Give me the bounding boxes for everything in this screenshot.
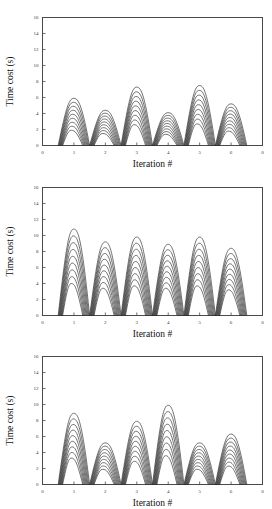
arc-cluster	[215, 248, 246, 315]
y-tick-label: 8	[36, 418, 39, 423]
y-axis-title: Time cost (s)	[5, 227, 16, 277]
x-tick-label: 6	[230, 150, 233, 155]
x-tick-label: 3	[136, 150, 139, 155]
arc-cluster	[58, 229, 89, 315]
y-tick-label: 12	[34, 217, 40, 222]
y-tick-label: 4	[36, 111, 39, 116]
x-axis-title: Iteration #	[133, 159, 173, 169]
x-tick-label: 0	[261, 320, 264, 325]
y-tick-label: 6	[36, 265, 39, 270]
x-tick-label: 0	[41, 150, 44, 155]
y-tick-label: 0	[36, 482, 39, 487]
x-axis-title: Iteration #	[133, 329, 173, 339]
arc-cluster	[90, 443, 121, 485]
x-tick-label: 0	[41, 320, 44, 325]
arc-cluster	[121, 87, 152, 145]
y-tick-label: 8	[36, 79, 39, 84]
y-tick-label: 14	[34, 201, 40, 206]
y-tick-label: 12	[34, 47, 40, 52]
chart-svg-3: 024681012141601234560Time cost (s)Iterat…	[0, 339, 272, 509]
arc-curve	[61, 441, 85, 484]
x-tick-label: 2	[104, 150, 107, 155]
x-tick-label: 0	[261, 489, 264, 494]
arc-curve	[124, 446, 148, 484]
x-tick-label: 5	[198, 320, 201, 325]
plot-frame	[43, 357, 263, 485]
y-tick-label: 2	[36, 297, 39, 302]
x-tick-label: 5	[198, 489, 201, 494]
arc-cluster	[184, 86, 215, 146]
y-tick-label: 6	[36, 95, 39, 100]
chart-panel-2: 024681012141601234560Time cost (s)Iterat…	[0, 170, 272, 340]
arc-curve	[187, 110, 211, 146]
chart-panel-1: 024681012141601234560Time cost (s)Iterat…	[0, 0, 272, 170]
y-tick-label: 16	[34, 185, 40, 190]
x-tick-label: 2	[104, 489, 107, 494]
y-tick-label: 6	[36, 434, 39, 439]
x-axis-title: Iteration #	[133, 498, 173, 508]
y-tick-label: 0	[36, 143, 39, 148]
arc-cluster	[215, 434, 246, 484]
arc-curve	[61, 263, 85, 315]
y-tick-label: 10	[34, 233, 40, 238]
arc-cluster	[153, 405, 184, 484]
x-tick-label: 1	[73, 489, 76, 494]
three-panel-chart-figure: 024681012141601234560Time cost (s)Iterat…	[0, 0, 272, 509]
y-tick-label: 4	[36, 281, 39, 286]
y-axis-title: Time cost (s)	[5, 57, 16, 107]
y-tick-label: 4	[36, 450, 39, 455]
arc-cluster	[215, 104, 246, 146]
plot-frame	[43, 18, 263, 146]
y-tick-label: 2	[36, 127, 39, 132]
arc-cluster	[58, 98, 89, 145]
arc-cluster	[90, 110, 121, 145]
x-tick-label: 0	[261, 150, 264, 155]
y-tick-label: 10	[34, 63, 40, 68]
chart-panel-3: 024681012141601234560Time cost (s)Iterat…	[0, 339, 272, 509]
x-tick-label: 3	[136, 320, 139, 325]
x-tick-label: 3	[136, 489, 139, 494]
arc-cluster	[121, 237, 152, 315]
arc-cluster	[121, 421, 152, 484]
y-axis-title: Time cost (s)	[5, 396, 16, 446]
x-tick-label: 0	[41, 489, 44, 494]
y-tick-label: 8	[36, 249, 39, 254]
arc-cluster	[153, 244, 184, 315]
x-tick-label: 4	[167, 150, 170, 155]
y-tick-label: 14	[34, 31, 40, 36]
arc-curve	[155, 437, 179, 485]
y-tick-label: 0	[36, 313, 39, 318]
arc-curve	[92, 271, 116, 316]
y-tick-label: 14	[34, 370, 40, 375]
arc-cluster	[184, 443, 215, 485]
arc-curve	[218, 454, 242, 484]
x-tick-label: 1	[73, 150, 76, 155]
y-tick-label: 16	[34, 354, 40, 359]
y-tick-label: 12	[34, 386, 40, 391]
arc-cluster	[153, 113, 184, 146]
arc-cluster	[90, 242, 121, 316]
arc-cluster	[58, 413, 89, 484]
x-tick-label: 6	[230, 320, 233, 325]
arc-curve	[124, 111, 148, 146]
x-tick-label: 2	[104, 320, 107, 325]
x-tick-label: 5	[198, 150, 201, 155]
x-tick-label: 1	[73, 320, 76, 325]
x-tick-label: 4	[167, 320, 170, 325]
y-tick-label: 2	[36, 466, 39, 471]
chart-svg-1: 024681012141601234560Time cost (s)Iterat…	[0, 0, 272, 170]
y-tick-label: 10	[34, 402, 40, 407]
chart-svg-2: 024681012141601234560Time cost (s)Iterat…	[0, 170, 272, 340]
y-tick-label: 16	[34, 15, 40, 20]
x-tick-label: 6	[230, 489, 233, 494]
arc-curve	[188, 280, 210, 316]
x-tick-label: 4	[167, 489, 170, 494]
arc-cluster	[184, 237, 215, 315]
